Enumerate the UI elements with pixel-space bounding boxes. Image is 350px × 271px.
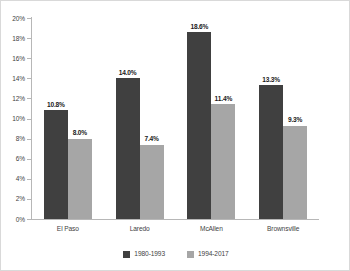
y-axis-tick-mark [27, 38, 31, 39]
y-axis-tick-mark [27, 179, 31, 180]
legend-swatch-icon [187, 251, 194, 258]
y-axis-tick-mark [27, 219, 31, 220]
legend-item[interactable]: 1980-1993 [123, 250, 165, 258]
bar [140, 145, 164, 219]
y-axis-tick-label: 16% [1, 55, 25, 62]
y-axis-tick-label: 18% [1, 35, 25, 42]
legend-label: 1994-2017 [198, 250, 229, 258]
legend-swatch-icon [123, 251, 130, 258]
bar-group: 14.0%7.4% [116, 18, 164, 219]
chart-legend: 1980-19931994-2017 [1, 250, 350, 258]
y-axis-tick-label: 4% [1, 175, 25, 182]
y-axis-tick-mark [27, 159, 31, 160]
bar [44, 110, 68, 219]
bar-value-label: 10.8% [36, 101, 76, 109]
y-axis-tick-label: 8% [1, 135, 25, 142]
bar-value-label: 8.0% [60, 129, 100, 137]
bar [283, 126, 307, 219]
x-axis-category-label: McAllen [171, 225, 251, 233]
legend-label: 1980-1993 [134, 250, 165, 258]
bar-group: 13.3%9.3% [259, 18, 307, 219]
y-axis-tick-label: 10% [1, 115, 25, 122]
legend-item[interactable]: 1994-2017 [187, 250, 229, 258]
y-axis-tick-mark [27, 98, 31, 99]
bar [116, 78, 140, 219]
bar [68, 139, 92, 219]
y-axis-tick-label: 2% [1, 195, 25, 202]
y-axis-tick-mark [27, 78, 31, 79]
bar [259, 85, 283, 219]
y-axis-tick-label: 6% [1, 155, 25, 162]
x-axis-line [31, 219, 319, 220]
bar-group: 18.6%11.4% [187, 18, 235, 219]
bar-chart: 0%2%4%6%8%10%12%14%16%18%20% 10.8%8.0%14… [0, 0, 350, 271]
bar [211, 104, 235, 219]
x-axis-category-label: El Paso [28, 225, 108, 233]
x-axis-category-label: Laredo [100, 225, 180, 233]
bar-value-label: 14.0% [108, 69, 148, 77]
y-axis-tick-mark [27, 58, 31, 59]
y-axis-tick-label: 20% [1, 15, 25, 22]
bar [187, 32, 211, 219]
y-axis-tick-mark [27, 119, 31, 120]
bar-value-label: 9.3% [275, 116, 315, 124]
y-axis-tick-mark [27, 199, 31, 200]
bar-value-label: 13.3% [251, 76, 291, 84]
bar-group: 10.8%8.0% [44, 18, 92, 219]
y-axis-tick-label: 12% [1, 95, 25, 102]
y-axis-tick-mark [27, 18, 31, 19]
bar-value-label: 7.4% [132, 135, 172, 143]
x-axis-category-label: Brownsville [243, 225, 323, 233]
y-axis-tick-label: 0% [1, 216, 25, 223]
bar-value-label: 11.4% [203, 95, 243, 103]
plot-area: 10.8%8.0%14.0%7.4%18.6%11.4%13.3%9.3% [32, 18, 319, 219]
y-axis-tick-label: 14% [1, 75, 25, 82]
y-axis-tick-mark [27, 139, 31, 140]
bar-value-label: 18.6% [179, 23, 219, 31]
